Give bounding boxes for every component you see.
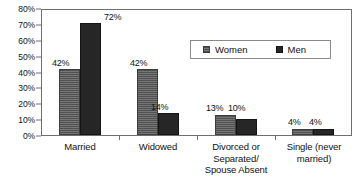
y-tick-label-20: 20%: [18, 100, 35, 109]
x-label-divorced-line2: Separated/: [197, 153, 275, 165]
x-label-widowed: Widowed: [119, 141, 197, 153]
legend-swatch-men-icon: [276, 46, 283, 53]
bar-divorced-women[interactable]: [215, 115, 236, 135]
x-label-single: Single (never married): [275, 141, 353, 164]
data-label-married-women: 42%: [52, 58, 69, 68]
bar-chart: 80% 70% 60% 50% 40% 30% 20% 10% 0%: [0, 0, 363, 186]
x-label-divorced-line3: Spouse Absent: [197, 164, 275, 176]
legend: Women Men: [190, 40, 331, 59]
y-tick-label-60: 60%: [18, 36, 35, 45]
x-tick-mark: [119, 136, 120, 140]
x-label-widowed-line1: Widowed: [119, 141, 197, 153]
x-label-single-line1: Single (never: [275, 141, 353, 153]
y-tick-label-30: 30%: [18, 84, 35, 93]
x-label-divorced-line1: Divorced or: [197, 141, 275, 153]
x-label-married: Married: [41, 141, 119, 153]
legend-swatch-women-icon: [203, 46, 210, 53]
bar-group-widowed: [119, 10, 197, 135]
data-label-divorced-women: 13%: [206, 103, 223, 113]
data-label-widowed-women: 42%: [130, 58, 147, 68]
x-tick-mark: [275, 136, 276, 140]
legend-label-women: Women: [215, 45, 248, 55]
bar-divorced-men[interactable]: [236, 119, 257, 135]
bar-married-men[interactable]: [80, 23, 101, 136]
bars-layer: [42, 10, 351, 135]
y-tick-label-0: 0%: [23, 132, 35, 141]
y-axis: 80% 70% 60% 50% 40% 30% 20% 10% 0%: [0, 9, 41, 136]
x-tick-mark: [197, 136, 198, 140]
bar-group-married: [42, 10, 119, 135]
bar-group-divorced-separated: [197, 10, 275, 135]
data-label-married-men: 72%: [104, 12, 121, 22]
legend-label-men: Men: [288, 45, 306, 55]
bar-single-men[interactable]: [313, 129, 334, 135]
data-label-single-men: 4%: [309, 117, 322, 127]
bar-single-women[interactable]: [292, 129, 313, 135]
legend-item-women[interactable]: Women: [203, 45, 248, 55]
y-tick-label-80: 80%: [18, 5, 35, 14]
data-label-single-women: 4%: [288, 117, 301, 127]
data-label-widowed-men: 14%: [151, 102, 168, 112]
y-tick-label-40: 40%: [18, 68, 35, 77]
x-label-single-line2: married): [275, 153, 353, 165]
y-tick-label-50: 50%: [18, 52, 35, 61]
x-axis-category-labels: Married Widowed Divorced or Separated/ S…: [41, 141, 352, 186]
y-tick-label-70: 70%: [18, 20, 35, 29]
bar-married-women[interactable]: [59, 69, 80, 135]
x-label-married-line1: Married: [41, 141, 119, 153]
x-label-divorced-separated: Divorced or Separated/ Spouse Absent: [197, 141, 275, 176]
legend-item-men[interactable]: Men: [276, 45, 306, 55]
data-label-divorced-men: 10%: [228, 103, 245, 113]
y-tick-label-10: 10%: [18, 116, 35, 125]
bar-widowed-men[interactable]: [158, 113, 179, 135]
